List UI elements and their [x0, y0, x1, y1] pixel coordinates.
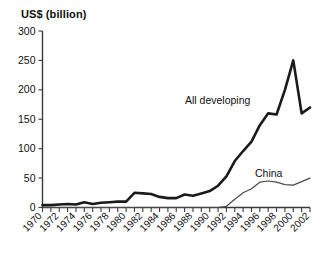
y-tick-label: 100	[18, 142, 36, 154]
x-tick-label: 2002	[288, 210, 312, 234]
series-label-china: China	[255, 167, 283, 179]
chart-figure: US$ (billion) 050100150200250300 1970197…	[0, 0, 329, 257]
y-tick-label: 50	[24, 172, 36, 184]
series-line-all-developing	[43, 60, 311, 205]
chart-plot-area: 050100150200250300 197019721974197619781…	[0, 0, 329, 257]
y-tick-label: 200	[18, 83, 36, 95]
y-axis: 050100150200250300	[18, 25, 43, 214]
x-axis: 1970197219741976197819801982198419861988…	[20, 208, 311, 234]
y-tick-label: 300	[18, 25, 36, 37]
series-annotations: All developingChina	[185, 94, 283, 179]
data-series-group	[43, 60, 311, 207]
y-tick-label: 250	[18, 54, 36, 66]
series-label-all-developing: All developing	[185, 94, 251, 106]
y-tick-label: 150	[18, 113, 36, 125]
